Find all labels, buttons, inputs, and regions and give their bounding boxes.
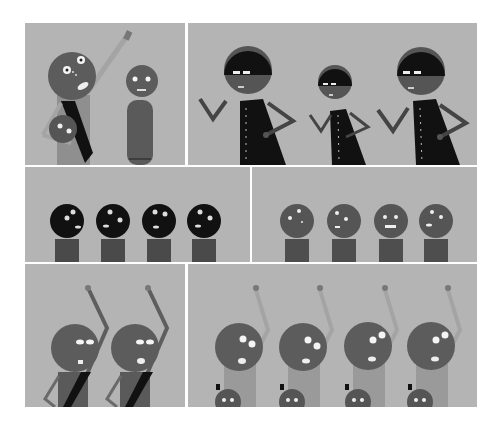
panel-2-illustration [188,23,477,165]
panel-3 [25,167,250,262]
parent-figure-4 [407,285,460,407]
parent-figure-3 [344,285,397,407]
masked-figure-2 [310,65,368,165]
parent-figure-1 [215,285,268,407]
masked-figure-1 [200,46,293,165]
panel-1-illustration [25,23,185,165]
masked-figure-3 [378,47,466,165]
panel-1 [25,23,185,165]
panel-2 [188,23,477,165]
panel-6-illustration [188,264,477,407]
panel-4-illustration [252,167,477,262]
panel-4 [252,167,477,262]
panel-5 [25,264,185,407]
panel-5-illustration [25,264,185,407]
panel-6 [188,264,477,407]
panel-3-illustration [25,167,250,262]
fist-figure-2 [107,285,167,407]
parent-figure-2 [279,285,332,407]
fist-figure-1 [45,285,107,407]
comic-page [0,0,501,432]
